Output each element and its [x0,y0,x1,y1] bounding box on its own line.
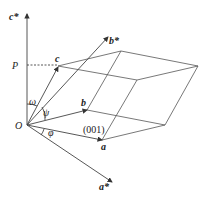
lattice-diagram: c* P c b* b (001) a a* O ω ψ φ [0,0,208,199]
b-label: b [81,97,86,108]
b-star-label: b* [109,35,120,46]
a-star-label: a* [99,181,110,192]
c-star-label: c* [9,11,19,22]
parallelepiped [58,51,198,140]
b-vector [27,110,87,125]
psi-label: ψ [43,107,50,118]
origin-label: O [15,120,22,131]
c-label: c [55,53,60,64]
phi-arc [41,129,44,135]
p-label: P [11,60,18,71]
vectors [27,14,112,182]
omega-label: ω [29,96,36,107]
phi-label: φ [48,127,54,138]
plane-label: (001) [83,124,105,136]
a-label: a [101,141,106,152]
